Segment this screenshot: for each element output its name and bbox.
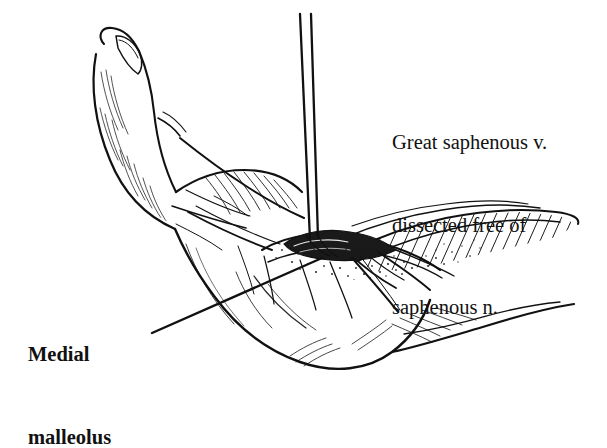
great-saphenous-vein-label: Great saphenous v. dissected free of sap… [392,74,547,377]
vein-label-line-3: saphenous n. [392,294,547,322]
medial-malleolus-contour [236,272,316,330]
vein-label-line-1: Great saphenous v. [392,129,547,157]
medial-malleolus-label: Medial malleolus [28,286,111,448]
surgical-instrument [300,14,318,240]
vein-label-line-2: dissected free of [392,212,547,240]
malleolus-label-line-2: malleolus [28,424,111,448]
great-toe [94,28,186,229]
malleolus-label-line-1: Medial [28,341,111,369]
